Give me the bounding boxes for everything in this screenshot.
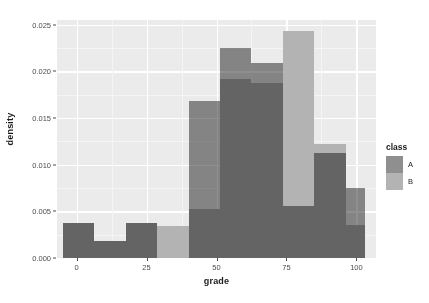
legend-title: class (386, 142, 429, 152)
histogram-bar (157, 226, 188, 258)
plot-panel (57, 20, 376, 258)
x-axis-tick-mark (356, 258, 357, 261)
histogram-bar (94, 241, 125, 258)
x-axis-tick-mark (147, 258, 148, 261)
y-axis-tick-label: 0.020 (32, 67, 51, 76)
y-axis-tick-mark (53, 164, 56, 165)
x-axis-tick-mark (77, 258, 78, 261)
y-axis-tick-mark (53, 24, 56, 25)
gridline-minor-vertical (112, 20, 113, 258)
legend: class AB (386, 142, 429, 190)
x-axis-tick-mark (286, 258, 287, 261)
x-axis-tick-mark (217, 258, 218, 261)
x-axis: 0255075100 (0, 258, 429, 278)
legend-key-swatch (386, 156, 403, 173)
chart-plot-area: density 0.0000.0050.0100.0150.0200.025 0… (0, 0, 429, 303)
y-axis-tick-label: 0.015 (32, 114, 51, 123)
legend-item-a[interactable]: A (386, 156, 429, 173)
legend-items: AB (386, 156, 429, 190)
legend-item-label: B (408, 177, 413, 186)
y-axis-tick-label: 0.005 (32, 207, 51, 216)
histogram-bar (63, 223, 95, 258)
histogram-bar (251, 63, 283, 258)
x-axis-tick-label: 25 (142, 263, 150, 272)
histogram-bar (283, 206, 314, 258)
y-axis-tick-label: 0.010 (32, 160, 51, 169)
x-axis-tick-label: 0 (74, 263, 78, 272)
y-axis-tick-mark (53, 118, 56, 119)
histogram-bar (126, 223, 158, 258)
y-axis-tick-label: 0.025 (32, 20, 51, 29)
legend-item-label: A (408, 160, 413, 169)
y-axis-tick-mark (53, 71, 56, 72)
histogram-bar (220, 48, 251, 258)
y-axis-tick-mark (53, 211, 56, 212)
histogram-bar (314, 153, 346, 258)
legend-item-b[interactable]: B (386, 173, 429, 190)
legend-key-swatch (386, 173, 403, 190)
histogram-bar (189, 101, 221, 258)
x-axis-tick-label: 50 (212, 263, 220, 272)
x-axis-tick-label: 100 (350, 263, 363, 272)
x-axis-title: grade (57, 276, 376, 286)
gridline-minor-vertical (182, 20, 183, 258)
histogram-bar (346, 188, 365, 258)
x-axis-tick-label: 75 (282, 263, 290, 272)
